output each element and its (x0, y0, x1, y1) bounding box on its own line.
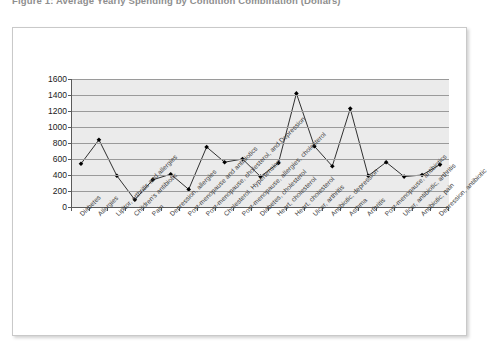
x-axis-labels: DiabetesAllergiesLipitor, arthritis and … (13, 28, 468, 337)
chart-card: 02004006008001000120014001600 Diabetes: … (12, 27, 467, 336)
chart-plot-wrapper: 02004006008001000120014001600 Diabetes: … (13, 28, 468, 337)
figure-caption: Figure 1: Average Yearly Spending by Con… (12, 0, 482, 7)
x-axis-category-label: Arthritis (366, 197, 387, 218)
x-axis-category-label: Pain (151, 204, 165, 218)
